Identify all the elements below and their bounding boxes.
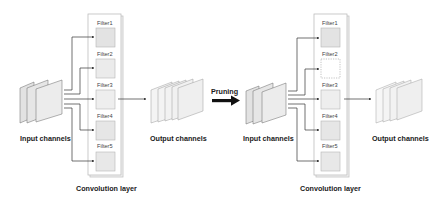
- pruning-diagram: Input channels Filter1 Filter2 Filter3 F…: [0, 0, 447, 204]
- svg-text:Filter3: Filter3: [322, 82, 338, 88]
- output-channel-stack-after: [376, 79, 422, 123]
- input-channel-stack: [20, 80, 62, 123]
- svg-text:Filter4: Filter4: [97, 113, 113, 119]
- filter-2-pruned: Filter2: [321, 51, 340, 78]
- filter-1: Filter1: [96, 20, 115, 47]
- filter-1-after: Filter1: [321, 20, 340, 47]
- before-panel: Input channels Filter1 Filter2 Filter3 F…: [20, 14, 207, 193]
- input-channels-label-after: Input channels: [243, 134, 294, 143]
- convolution-layer-label-after: Convolution layer: [300, 184, 361, 193]
- input-channels-label: Input channels: [20, 134, 71, 143]
- pruning-arrow-icon: [212, 96, 240, 106]
- filter-3-after: Filter3: [321, 82, 340, 109]
- svg-text:Filter1: Filter1: [97, 20, 113, 26]
- svg-text:Filter3: Filter3: [97, 82, 113, 88]
- output-channel-stack: [151, 79, 203, 123]
- svg-text:Filter2: Filter2: [322, 51, 338, 57]
- output-channels-label: Output channels: [150, 134, 207, 143]
- convolution-layer-label: Convolution layer: [76, 184, 137, 193]
- input-channel-stack-after: [246, 83, 286, 124]
- svg-text:Filter4: Filter4: [322, 113, 338, 119]
- filter-2: Filter2: [96, 51, 115, 78]
- filter-4-after: Filter4: [321, 113, 340, 140]
- filter-3: Filter3: [96, 82, 115, 109]
- svg-text:Filter1: Filter1: [322, 20, 338, 26]
- pruning-label: Pruning: [211, 87, 238, 96]
- svg-text:Filter5: Filter5: [97, 143, 113, 149]
- svg-text:Filter5: Filter5: [322, 143, 338, 149]
- after-panel: Input channels Filter1 Filter2 Filter3 F…: [243, 14, 429, 193]
- filter-4: Filter4: [96, 113, 115, 140]
- svg-text:Filter2: Filter2: [97, 51, 113, 57]
- pruning-transition: Pruning: [211, 87, 240, 106]
- output-channels-label-after: Output channels: [372, 134, 429, 143]
- filter-5-after: Filter5: [321, 143, 340, 171]
- filter-5: Filter5: [96, 143, 115, 171]
